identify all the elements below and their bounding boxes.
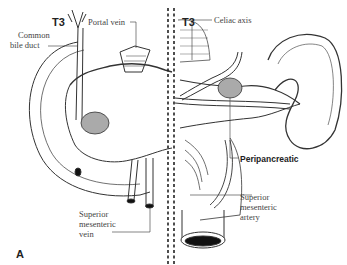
- superior-mesenteric-vein: [128, 158, 153, 205]
- anatomical-illustration: [0, 0, 347, 265]
- tumor-left: [81, 112, 109, 134]
- label-common-bile-duct-1: Common: [18, 30, 50, 40]
- stage-label-right: T3: [182, 16, 195, 28]
- label-sma-1: Superior: [240, 192, 269, 202]
- portal-vein: [120, 46, 150, 72]
- label-common-bile-duct-2: bile duct: [10, 40, 40, 50]
- label-smv-2: mesenteric: [79, 219, 116, 229]
- label-celiac-axis: Celiac axis: [214, 15, 252, 25]
- panel-label: A: [16, 248, 24, 260]
- splenic-vessel: [175, 98, 290, 104]
- midline-divider: [168, 8, 174, 265]
- common-bile-duct: [72, 10, 83, 120]
- leader-smv: [112, 208, 150, 232]
- tumor-right: [218, 78, 242, 98]
- label-sma-2: mesenteric: [240, 202, 277, 212]
- leader-portal-vein: [130, 22, 136, 48]
- label-sma-3: artery: [240, 212, 260, 222]
- label-portal-vein: Portal vein: [88, 17, 125, 27]
- stage-label-left: T3: [52, 16, 65, 28]
- label-smv-3: vein: [79, 229, 94, 239]
- pancreas-t3-staging-diagram: T3 T3 Portal vein Common bile duct Celia…: [0, 0, 347, 265]
- label-smv-1: Superior: [79, 209, 108, 219]
- pancreas-head: [70, 64, 172, 85]
- label-peripancreatic: Peripancreatic: [240, 154, 299, 164]
